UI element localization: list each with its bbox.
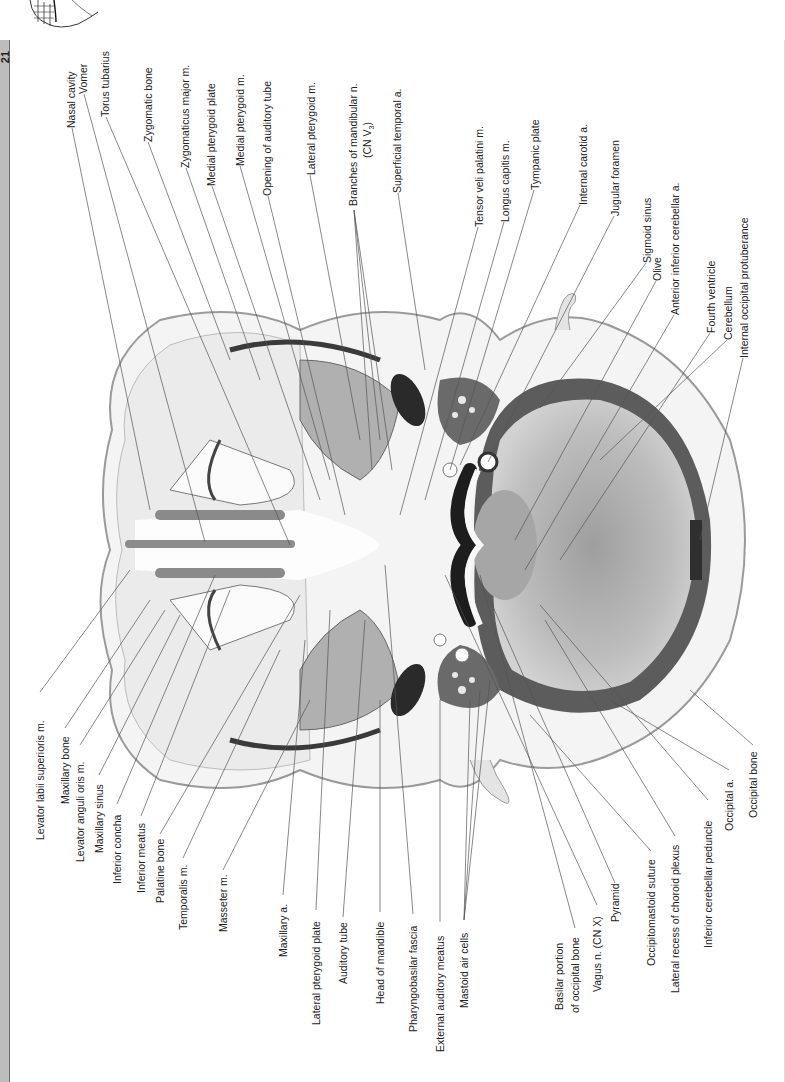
label-tympanic-plate: Tympanic plate <box>530 119 541 190</box>
label-nasal-cavity: Nasal cavity <box>66 71 77 128</box>
label-jugular-foramen: Jugular foramen <box>610 140 621 216</box>
label-superficial-temporal-a: Superficial temporal a. <box>392 89 403 193</box>
label-levator-anguli-oris: Levator anguli oris m. <box>75 762 86 862</box>
label-opening-auditory-tube: Opening of auditory tube <box>262 81 273 196</box>
label-anterior-inferior-cerebellar-a: Anterior inferior cerebellar a. <box>670 183 681 315</box>
label-of-occipital-bone: of occipital bone <box>570 937 581 1013</box>
label-occipital-a: Occipital a. <box>724 779 735 831</box>
label-zygomaticus-major: Zygomaticus major m. <box>180 65 191 168</box>
label-maxillary-bone: Maxillary bone <box>60 736 71 804</box>
label-zygomatic-bone: Zygomatic bone <box>143 67 154 142</box>
label-maxillary-sinus: Maxillary sinus <box>94 784 105 853</box>
label-vagus-n: Vagus n. (CN X) <box>592 916 603 992</box>
label-lateral-pterygoid-m: Lateral pterygoid m. <box>306 82 317 175</box>
label-mastoid-air-cells: Mastoid air cells <box>459 933 470 1008</box>
label-inferior-meatus: Inferior meatus <box>136 823 147 893</box>
label-auditory-tube: Auditory tube <box>338 922 349 984</box>
label-pharyngobasilar-fascia: Pharyngobasilar fascia <box>408 926 419 1032</box>
label-sigmoid-sinus: Sigmoid sinus <box>642 198 653 263</box>
label-occipitomastoid-suture: Occipitomastoid suture <box>646 859 657 966</box>
label-longus-capitis: Longus capitis m. <box>500 140 511 222</box>
label-basilar-portion: Basilar portion <box>554 943 565 1010</box>
label-fourth-ventricle: Fourth ventricle <box>706 261 717 333</box>
label-medial-pterygoid-m: Medial pterygoid m. <box>235 74 246 166</box>
label-lateral-recess-choroid-plexus: Lateral recess of choroid plexus <box>670 845 681 993</box>
label-pyramid: Pyramid <box>610 883 621 922</box>
label-internal-occipital-protuberance: Internal occipital protuberance <box>739 217 750 358</box>
label-levator-labii-superioris: Levator labii superioris m. <box>35 720 46 840</box>
label-olive: Olive <box>652 257 663 281</box>
label-external-auditory-meatus: External auditory meatus <box>435 936 446 1052</box>
label-occipital-bone: Occipital bone <box>748 751 759 818</box>
label-maxillary-a: Maxillary a. <box>278 904 289 957</box>
label-branches-mandibular-n: Branches of mandibular n. <box>348 83 359 206</box>
label-inferior-concha: Inferior concha <box>112 815 123 884</box>
label-internal-carotid-a: Internal carotid a. <box>578 124 589 205</box>
label-inferior-cerebellar-peduncle: Inferior cerebellar peduncle <box>703 821 714 948</box>
label-temporalis-m: Temporalis m. <box>178 865 189 930</box>
label-palatine-bone: Palatine bone <box>155 839 166 903</box>
label-vomer: Vomer <box>78 64 89 94</box>
label-torus-tubarius: Torus tubarius <box>100 51 111 117</box>
label-medial-pterygoid-plate: Medial pterygoid plate <box>206 83 217 186</box>
label-masseter-m: Masseter m. <box>218 874 229 932</box>
label-lateral-pterygoid-plate: Lateral pterygoid plate <box>311 921 322 1025</box>
label-head-of-mandible: Head of mandible <box>375 922 386 1004</box>
label-branches-mandibular-n-cn: (CN V3) <box>362 122 377 158</box>
label-tensor-veli-palatini: Tensor veli palatini m. <box>474 126 485 227</box>
label-cerebellum: Cerebellum <box>723 286 734 340</box>
